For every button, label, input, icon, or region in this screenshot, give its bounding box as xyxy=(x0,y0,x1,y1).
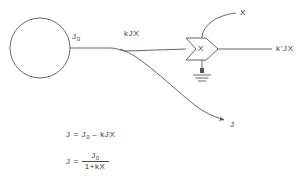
source-circle xyxy=(10,18,70,78)
equation-second-fraction: J0 1+kX xyxy=(82,152,109,171)
feedback-term-label: kJX xyxy=(124,30,139,38)
fraction-numerator: J0 xyxy=(88,152,102,161)
equation-second-lhs: J = xyxy=(66,157,79,166)
feedback-line-to-multiplier xyxy=(126,49,186,51)
output-label: k'JX xyxy=(276,45,294,53)
equation-first: J = J0 – kJX xyxy=(66,131,115,139)
fraction-denominator: 1+kX xyxy=(82,162,109,171)
multiplier-input-leader xyxy=(202,13,236,38)
ground-terminal-square xyxy=(200,68,204,73)
source-output-label: J0 xyxy=(72,33,80,41)
multiplier-symbol-label: X xyxy=(198,45,204,53)
multiplier-input-label: X xyxy=(240,9,246,17)
equation-second: J = J0 1+kX xyxy=(66,152,109,171)
diagram-vector-layer xyxy=(0,0,302,181)
diagram-canvas: J0 kJX X X k'JX J J = J0 – kJX J = J0 1+… xyxy=(0,0,302,181)
branch-output-label: J xyxy=(230,121,235,129)
branch-output-curve xyxy=(120,49,224,120)
